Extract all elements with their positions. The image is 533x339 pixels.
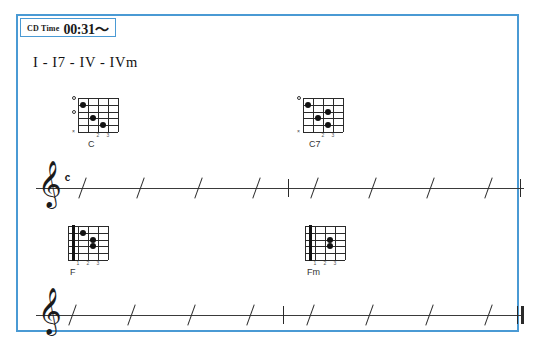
final-barline-thin (517, 306, 518, 324)
fret-number: 3 (332, 133, 335, 138)
chord-finger-dot (100, 122, 106, 128)
chord-finger-dot (80, 230, 86, 236)
chord-fret-line (335, 226, 336, 260)
fret-number: 1 (77, 261, 80, 266)
chord-fret-line (98, 98, 99, 132)
chord-grid: ×23 (303, 98, 343, 132)
chord-finger-dot (325, 122, 331, 128)
chord-name-label: F (70, 267, 76, 277)
chord-fret-line (88, 226, 89, 260)
chord-name-label: C (88, 139, 95, 149)
chord-grid: 123 (68, 226, 108, 260)
measure-barline (283, 306, 284, 324)
chord-fret-line (108, 226, 109, 260)
open-string-marker (72, 110, 76, 114)
chord-fret-line (333, 98, 334, 132)
chord-string-line (78, 112, 118, 113)
chord-fret-line (88, 98, 89, 132)
chord-nut (68, 226, 69, 260)
fret-number: 2 (324, 261, 327, 266)
chord-finger-dot (315, 115, 321, 121)
chord-nut (78, 98, 79, 132)
chord-fret-line (108, 98, 109, 132)
muted-string-marker: × (72, 129, 75, 134)
chord-nut (303, 98, 304, 132)
chord-string-line (303, 112, 343, 113)
chord-fret-line (78, 226, 79, 260)
staff-line (36, 188, 524, 189)
cd-time-value: 00:31〜 (63, 18, 108, 38)
treble-clef: 𝄞 (38, 288, 62, 332)
chord-string-line (303, 118, 343, 119)
chord-grid: 123 (305, 226, 345, 260)
chord-nut (305, 226, 306, 260)
chord-string-line (78, 118, 118, 119)
chord-barre (72, 225, 75, 261)
chord-diagram-c: ×23C (78, 98, 118, 132)
measure-barline (288, 179, 289, 197)
fret-number: 1 (314, 261, 317, 266)
chord-fret-line (345, 226, 346, 260)
common-time: 𝄴 (64, 172, 71, 187)
chord-diagram-c7: ×23C7 (303, 98, 343, 132)
chord-barre (309, 225, 312, 261)
chord-fret-line (118, 98, 119, 132)
chord-string-line (78, 125, 118, 126)
fret-number: 3 (334, 261, 337, 266)
progression-title: I - I7 - IV - IVm (33, 54, 138, 71)
fret-number: 2 (97, 133, 100, 138)
open-string-marker (297, 96, 301, 100)
chord-name-label: C7 (309, 139, 321, 149)
chord-finger-dot (80, 102, 86, 108)
chord-string-line (303, 98, 343, 99)
chord-string-line (78, 98, 118, 99)
staff-upper: 𝄞𝄴 (36, 166, 524, 210)
chord-diagram-fm: 123Fm (305, 226, 345, 260)
chord-diagram-f: 123F (68, 226, 108, 260)
chord-finger-dot (325, 109, 331, 115)
fret-number: 3 (97, 261, 100, 266)
chord-fret-line (343, 98, 344, 132)
chord-fret-line (315, 226, 316, 260)
cd-time-badge: CD Time 00:31〜 (20, 18, 116, 37)
open-string-marker (72, 96, 76, 100)
muted-string-marker: × (297, 129, 300, 134)
chord-finger-dot (327, 237, 333, 243)
chord-string-line (303, 125, 343, 126)
lesson-frame: CD Time 00:31〜 I - I7 - IV - IVm ×23C×23… (16, 14, 519, 332)
chord-fret-line (313, 98, 314, 132)
chord-grid: ×23 (78, 98, 118, 132)
chord-fret-line (98, 226, 99, 260)
cd-time-label: CD Time (27, 24, 59, 33)
chord-fret-line (323, 98, 324, 132)
chord-finger-dot (305, 102, 311, 108)
treble-clef: 𝄞 (38, 161, 62, 205)
chord-finger-dot (327, 243, 333, 249)
chord-name-label: Fm (307, 267, 320, 277)
fret-number: 3 (107, 133, 110, 138)
final-barline-thick (521, 306, 524, 324)
fret-number: 2 (322, 133, 325, 138)
chord-finger-dot (90, 115, 96, 121)
fret-number: 2 (87, 261, 90, 266)
chord-fret-line (325, 226, 326, 260)
staff-line (36, 315, 524, 316)
end-barline (520, 179, 521, 197)
staff-lower: 𝄞 (36, 293, 524, 337)
chord-finger-dot (90, 243, 96, 249)
chord-finger-dot (90, 237, 96, 243)
